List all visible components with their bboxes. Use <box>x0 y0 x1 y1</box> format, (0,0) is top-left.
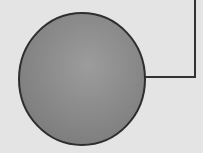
diagram-canvas <box>0 0 203 153</box>
circle-node[interactable] <box>19 13 145 145</box>
diagram-svg <box>0 0 203 153</box>
connector-line <box>145 0 195 77</box>
